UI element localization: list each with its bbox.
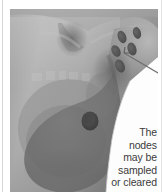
illustration-plate — [10, 9, 158, 192]
plate-right-rule — [161, 0, 162, 192]
anatomy-illustration — [10, 9, 158, 192]
breast-lymph-node-figure: The nodes may be sampled or cleared — [0, 0, 163, 192]
nipple-center — [85, 115, 93, 124]
plate-left-rule — [2, 0, 3, 192]
suprasternal-notch-shadow — [56, 21, 88, 57]
breast-overlay-tail — [86, 73, 118, 117]
